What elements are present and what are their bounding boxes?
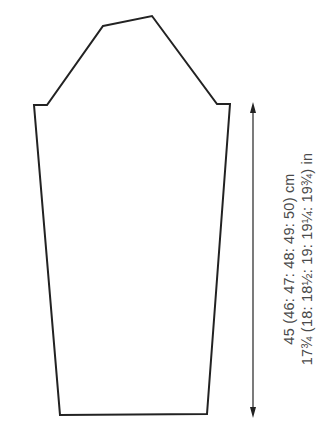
- sleeve-outline: [34, 16, 230, 415]
- length-measurement-arrow: [250, 102, 256, 418]
- arrow-head-up-icon: [250, 102, 256, 113]
- arrow-head-down-icon: [250, 407, 256, 418]
- sleeve-diagram: 45 (46: 47: 48: 49: 50) cm 17¾ (18: 18½:…: [0, 0, 326, 440]
- length-label-cm: 45 (46: 47: 48: 49: 50) cm: [281, 173, 297, 344]
- length-label-in: 17¾ (18: 18½: 19: 19¼: 19¾) in: [299, 153, 315, 365]
- diagram-svg: [0, 0, 326, 440]
